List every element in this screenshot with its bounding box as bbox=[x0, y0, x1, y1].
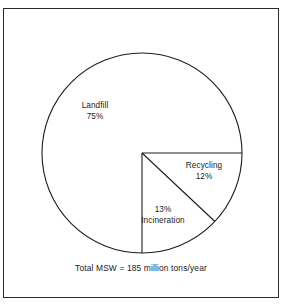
slice-label-recycling-name: Recycling bbox=[168, 161, 240, 172]
pie-chart-graphic bbox=[0, 0, 288, 307]
slice-label-landfill-value: 75% bbox=[56, 112, 134, 123]
pie-chart-figure: Landfill 75% Recycling 12% 13% Incinerat… bbox=[0, 0, 288, 307]
chart-caption: Total MSW = 185 million tons/year bbox=[3, 263, 279, 273]
slice-label-recycling: Recycling 12% bbox=[168, 161, 240, 182]
slice-label-recycling-value: 12% bbox=[168, 172, 240, 183]
slice-label-incineration-value: 13% bbox=[120, 205, 206, 216]
slice-label-landfill-name: Landfill bbox=[56, 101, 134, 112]
slice-label-incineration-name: Incineration bbox=[120, 216, 206, 227]
slice-label-landfill: Landfill 75% bbox=[56, 101, 134, 122]
slice-label-incineration: 13% Incineration bbox=[120, 205, 206, 226]
